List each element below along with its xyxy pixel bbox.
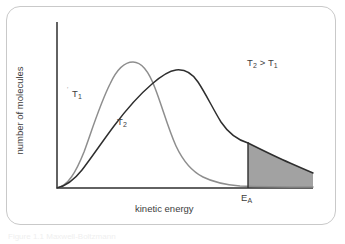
curve-label-t2: T2 [117,116,127,127]
activation-energy-label: EA [241,192,252,203]
t1-label-tickmark: ʼ [67,86,68,92]
x-axis-label: kinetic energy [135,203,194,214]
activation-energy-sub: A [247,197,252,204]
curve-label-t1-sub: 1 [78,93,82,100]
annotation-t1-text: T [268,57,274,68]
curve-label-t2-sub: 2 [123,121,127,128]
temperature-comparison-annotation: T2 > T1 [247,57,278,68]
shaded-area-above-activation-energy [248,143,313,188]
annotation-t2-sub: 2 [253,62,257,69]
curve-label-t1: T1 [72,88,82,99]
figure-caption-partial: Figure 1.1 Maxwell-Boltzmann [8,232,188,242]
annotation-operator: > [257,57,268,68]
figure-root: number of molecules kinetic energy ʼ T1 … [0,0,345,244]
y-axis-label: number of molecules [14,61,25,161]
annotation-t1-sub: 1 [274,62,278,69]
